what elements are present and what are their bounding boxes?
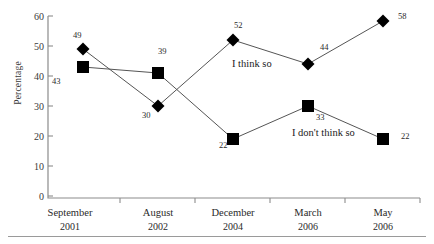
x-tick-month-1: September [48,207,93,218]
x-tick-month-3: December [211,207,254,218]
point-label-think-2: 30 [142,110,151,120]
x-tick-year-5: 2006 [333,220,433,235]
series-annotation-i-think-so: I think so [232,58,272,69]
point-label-dont-4: 33 [316,112,325,122]
point-label-dont-1: 43 [52,76,61,86]
point-label-dont-3: 22 [219,140,228,150]
point-label-think-3: 52 [234,20,243,30]
point-label-think-5: 58 [398,11,407,21]
x-tick-year-1: 2001 [20,220,120,235]
point-label-think-4: 44 [320,42,329,52]
point-label-dont-2: 39 [158,46,167,56]
y-axis-ticks [48,16,53,196]
series-annotation-i-dont-think-so: I don't think so [292,127,355,138]
x-tick-month-2: August [143,207,173,218]
x-tick-label-5: May 2006 [333,205,433,235]
line-chart: Percentage 60 50 40 30 20 10 0 [0,0,434,244]
x-tick-label-1: September 2001 [20,205,120,235]
x-tick-month-5: May [373,207,392,218]
point-label-think-1: 49 [73,30,82,40]
x-tick-month-4: March [294,207,321,218]
x-axis-ticks [120,198,420,203]
footer-divider [8,236,426,237]
point-label-dont-5: 22 [401,131,410,141]
